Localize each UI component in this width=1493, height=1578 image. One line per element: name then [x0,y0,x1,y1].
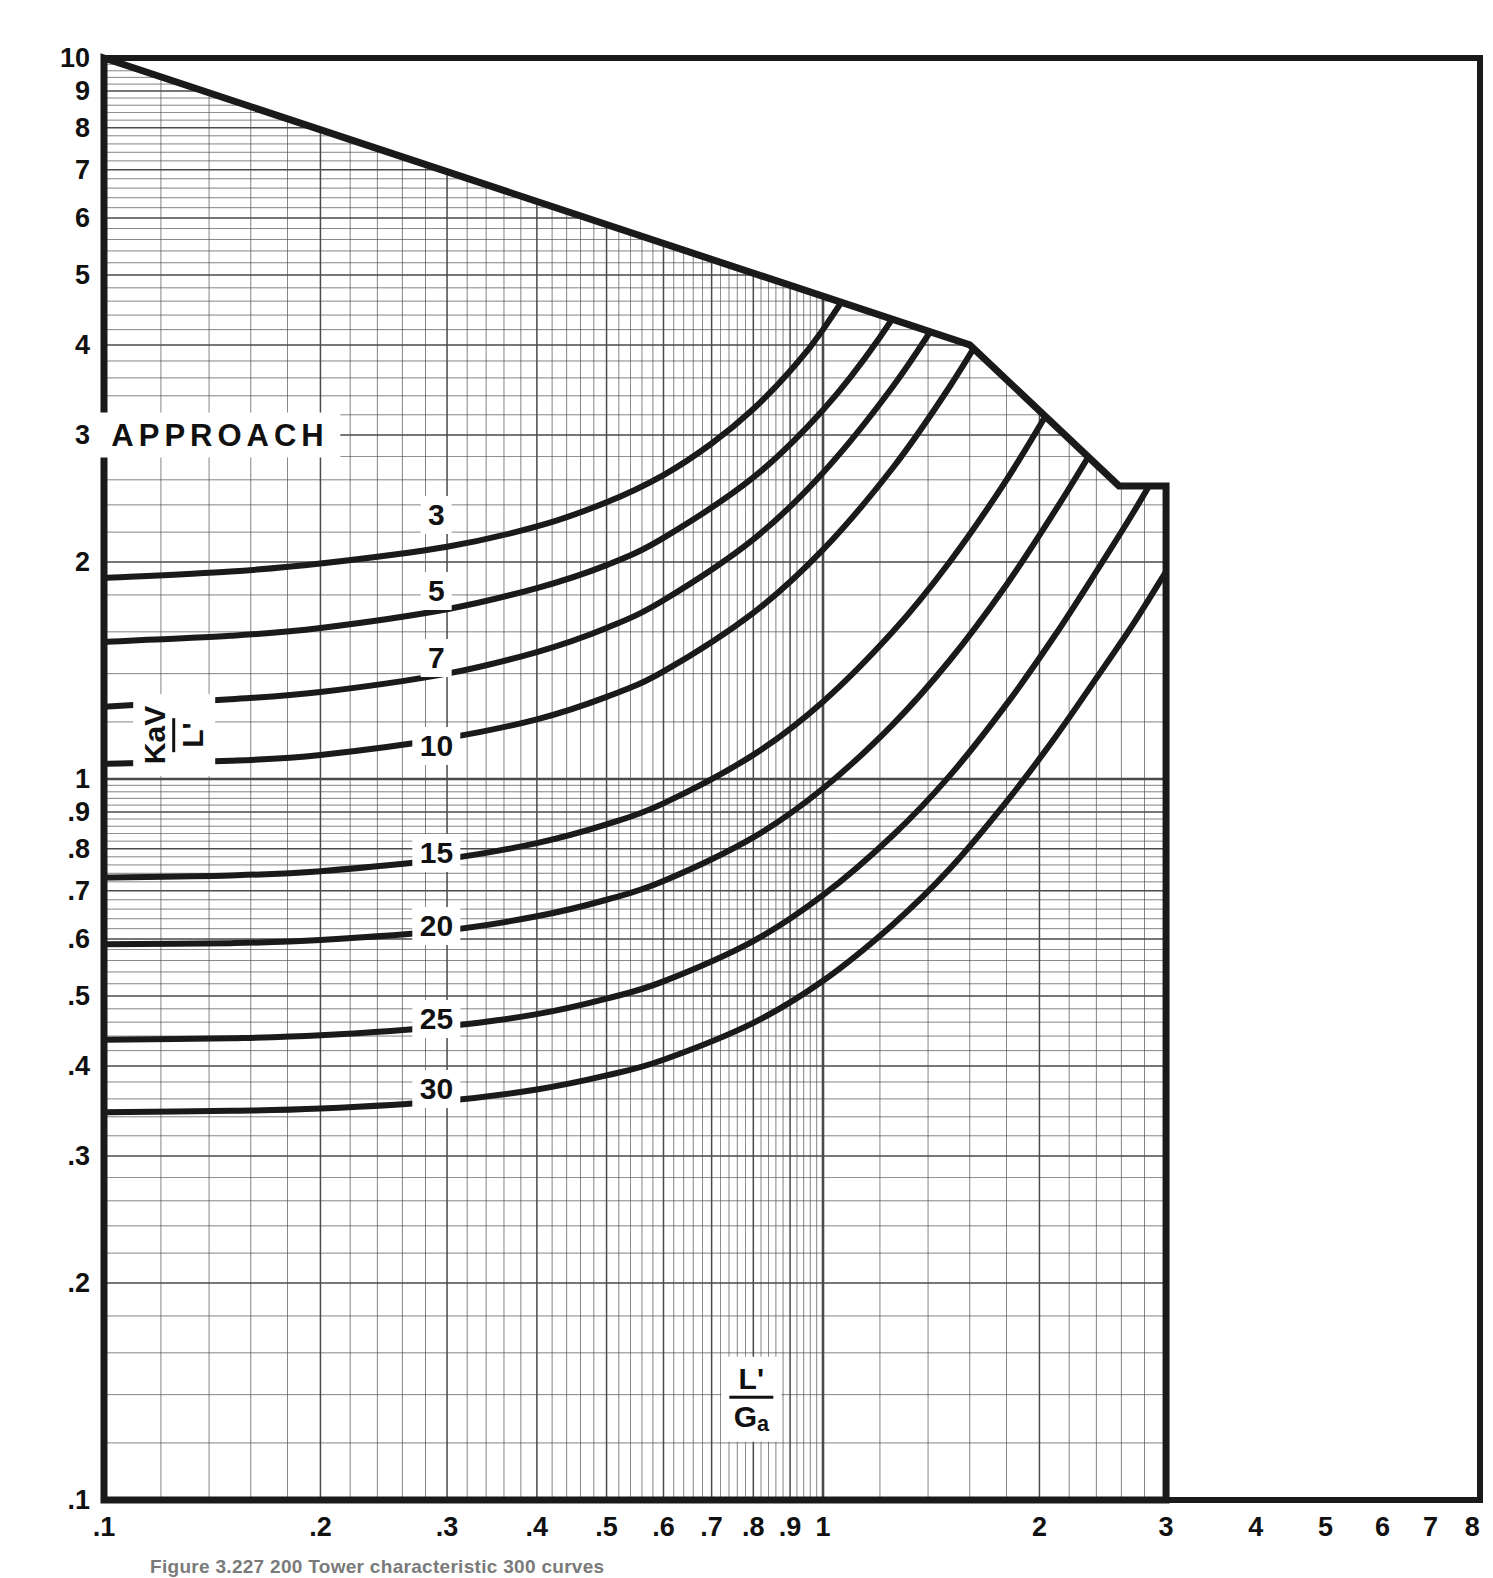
x-tick-p1: .1 [93,1514,116,1541]
grid-minor [104,58,1166,1500]
x-axis-title-denominator-subscript: a [757,1411,769,1436]
y-tick-1: 1 [75,766,90,793]
y-tick-p9: .9 [67,798,90,825]
approach-legend-title: APPROACH [99,412,340,457]
y-tick-p2: .2 [67,1269,90,1296]
y-tick-10: 10 [60,45,90,72]
y-tick-4: 4 [75,331,90,358]
x-tick-1: 1 [815,1514,830,1541]
x-tick-4: 4 [1248,1514,1263,1541]
x-axis-title-denominator: Ga [730,1396,773,1436]
x-axis-title-numerator: L' [735,1363,768,1396]
x-tick-p8: .8 [742,1514,765,1541]
y-tick-p1: .1 [67,1487,90,1514]
y-tick-9: 9 [75,77,90,104]
x-tick-p3: .3 [436,1514,459,1541]
y-axis-title: KaV L' [133,694,215,776]
curve-label-20: 20 [413,907,460,945]
figure-caption: Figure 3.227 200 Tower characteristic 30… [150,1556,604,1578]
x-tick-p9: .9 [779,1514,802,1541]
x-tick-6: 6 [1375,1514,1390,1541]
y-axis-title-numerator: KaV [139,702,172,768]
x-axis-title-denominator-main: G [734,1400,757,1433]
x-tick-p5: .5 [595,1514,618,1541]
y-tick-p6: .6 [67,925,90,952]
x-tick-7: 7 [1423,1514,1438,1541]
y-axis-title-denominator: L' [172,719,209,752]
x-tick-p7: .7 [700,1514,723,1541]
x-tick-p6: .6 [652,1514,675,1541]
y-tick-8: 8 [75,114,90,141]
y-tick-2: 2 [75,548,90,575]
x-tick-p4: .4 [526,1514,549,1541]
curve-label-5: 5 [421,572,452,610]
y-tick-p4: .4 [67,1052,90,1079]
y-tick-p8: .8 [67,835,90,862]
y-tick-p3: .3 [67,1142,90,1169]
curve-label-10: 10 [413,727,460,765]
y-tick-7: 7 [75,156,90,183]
x-tick-p2: .2 [309,1514,332,1541]
x-tick-2: 2 [1032,1514,1047,1541]
y-tick-6: 6 [75,204,90,231]
curve-label-30: 30 [413,1070,460,1108]
x-tick-3: 3 [1159,1514,1174,1541]
approach-curve-7 [104,81,1069,707]
curve-label-7: 7 [421,639,452,677]
x-tick-5: 5 [1318,1514,1333,1541]
curve-label-25: 25 [413,1000,460,1038]
x-axis-title: L' Ga [722,1357,781,1442]
y-tick-p7: .7 [67,877,90,904]
y-tick-3: 3 [75,421,90,448]
approach-curve-5 [104,58,1039,642]
curve-label-15: 15 [413,834,460,872]
y-tick-5: 5 [75,262,90,289]
y-tick-p5: .5 [67,983,90,1010]
x-tick-8: 8 [1465,1514,1480,1541]
curve-label-3: 3 [421,496,452,534]
